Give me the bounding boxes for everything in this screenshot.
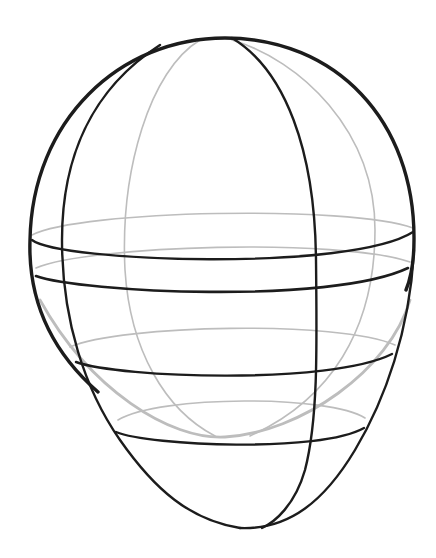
equator-ring-back: [32, 213, 413, 235]
nose-ring: [76, 354, 392, 376]
hidden-guide-lines: [32, 40, 413, 437]
brow-ring: [36, 268, 408, 292]
cranium-outline: [30, 38, 414, 392]
hidden-meridian-right: [232, 40, 375, 436]
equator-ring: [32, 232, 413, 259]
center-meridian: [232, 38, 317, 528]
nose-ring-back: [70, 328, 395, 347]
sphere-bottom-arc: [40, 300, 410, 437]
head-construction-diagram: [0, 0, 436, 558]
hidden-meridian-left: [124, 40, 215, 436]
front-guide-lines: [30, 38, 414, 528]
